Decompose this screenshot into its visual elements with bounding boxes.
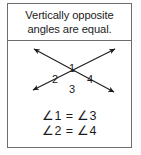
line-a-lower-right-ray [73, 70, 114, 92]
angle-label-4: 4 [87, 74, 93, 85]
line-a-upper-left-ray [34, 49, 73, 70]
crossing-lines-svg [8, 45, 131, 107]
angle-label-1: 1 [69, 63, 75, 74]
card-body: 1 2 3 4 ∠1 = ∠3 ∠2 = ∠4 [8, 41, 131, 147]
header-title: Vertically opposite angles are equal. [12, 8, 127, 36]
line-b-upper-right-ray [73, 49, 115, 70]
equations-group: ∠1 = ∠3 ∠2 = ∠4 [8, 109, 131, 139]
angle-label-3: 3 [69, 84, 75, 95]
diagram-page: Vertically opposite angles are equal. 1 [0, 0, 141, 155]
angle-label-2: 2 [52, 74, 58, 85]
vertical-angles-card: Vertically opposite angles are equal. 1 [7, 3, 132, 148]
crossing-lines-figure: 1 2 3 4 [8, 45, 131, 107]
equation-2: ∠2 = ∠4 [8, 124, 131, 139]
equation-1: ∠1 = ∠3 [8, 109, 131, 124]
card-header: Vertically opposite angles are equal. [8, 4, 131, 41]
